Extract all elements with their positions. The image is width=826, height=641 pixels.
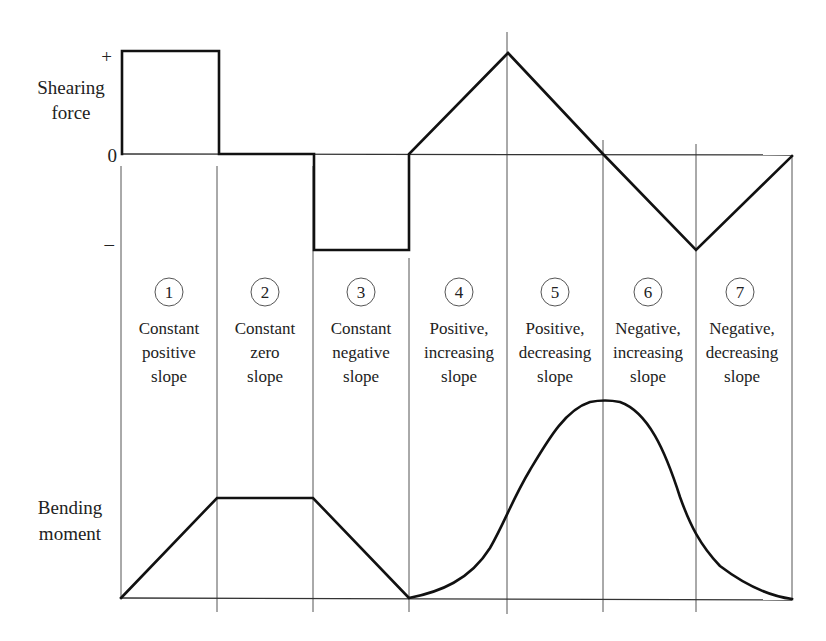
segment-3-line2: negative bbox=[332, 343, 390, 362]
segment-2-line1: Constant bbox=[235, 319, 296, 338]
segment-2-line3: slope bbox=[247, 367, 283, 386]
segment-6-line1: Negative, bbox=[615, 319, 681, 338]
shear-moment-diagram: + 0 – Shearing force 1 Constant positive… bbox=[0, 0, 826, 641]
segment-5-line3: slope bbox=[537, 367, 573, 386]
segment-3-number: 3 bbox=[357, 283, 366, 302]
segment-1: 1 Constant positive slope bbox=[139, 278, 200, 386]
moment-axis-label-line2: moment bbox=[39, 523, 102, 544]
shear-axis-label-line2: force bbox=[51, 102, 90, 123]
segment-6-line3: slope bbox=[630, 367, 666, 386]
segment-2: 2 Constant zero slope bbox=[235, 278, 296, 386]
segment-7-line3: slope bbox=[724, 367, 760, 386]
segment-6-line2: increasing bbox=[613, 343, 683, 362]
shear-axis-label-line1: Shearing bbox=[37, 77, 105, 98]
segment-6-number: 6 bbox=[644, 283, 653, 302]
shear-plus-tick: + bbox=[101, 46, 112, 67]
segment-4-line1: Positive, bbox=[429, 319, 488, 338]
segment-4-line2: increasing bbox=[424, 343, 494, 362]
segment-labels: 1 Constant positive slope 2 Constant zer… bbox=[139, 278, 779, 386]
segment-4-line3: slope bbox=[441, 367, 477, 386]
shear-force-curve bbox=[122, 51, 792, 250]
segment-7-number: 7 bbox=[736, 283, 745, 302]
segment-1-line3: slope bbox=[151, 367, 187, 386]
bending-moment-diagram: Bending moment bbox=[38, 401, 792, 601]
bending-moment-curve bbox=[121, 401, 792, 600]
shear-minus-tick: – bbox=[104, 233, 115, 254]
segment-5-line2: decreasing bbox=[519, 343, 592, 362]
segment-7-line2: decreasing bbox=[706, 343, 779, 362]
segment-6: 6 Negative, increasing slope bbox=[613, 278, 683, 386]
segment-1-line1: Constant bbox=[139, 319, 200, 338]
moment-zero-axis bbox=[121, 598, 792, 600]
segment-5-number: 5 bbox=[551, 283, 560, 302]
segment-7: 7 Negative, decreasing slope bbox=[706, 278, 779, 386]
moment-axis-label-line1: Bending bbox=[38, 497, 103, 518]
segment-4: 4 Positive, increasing slope bbox=[424, 278, 494, 386]
segment-2-line2: zero bbox=[250, 343, 279, 362]
shear-zero-tick: 0 bbox=[108, 145, 118, 166]
segment-5-line1: Positive, bbox=[525, 319, 584, 338]
segment-1-number: 1 bbox=[165, 283, 174, 302]
segment-5: 5 Positive, decreasing slope bbox=[519, 278, 592, 386]
segment-1-line2: positive bbox=[142, 343, 196, 362]
segment-3-line3: slope bbox=[343, 367, 379, 386]
segment-3-line1: Constant bbox=[331, 319, 392, 338]
segment-7-line1: Negative, bbox=[709, 319, 775, 338]
segment-2-number: 2 bbox=[261, 283, 270, 302]
segment-4-number: 4 bbox=[455, 283, 464, 302]
segment-3: 3 Constant negative slope bbox=[331, 278, 392, 386]
shear-force-diagram: + 0 – Shearing force bbox=[37, 46, 792, 254]
